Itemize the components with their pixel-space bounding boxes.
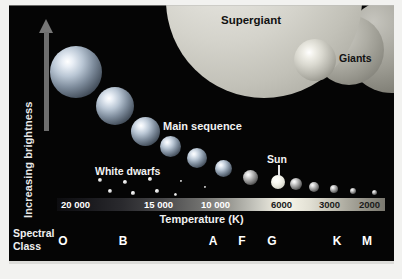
main-sequence-label: Main sequence bbox=[163, 120, 242, 132]
main-sequence-star-marker bbox=[187, 148, 207, 168]
spectral-class-title-line1: Spectral bbox=[13, 227, 54, 240]
x-axis-title: Temperature (K) bbox=[9, 213, 394, 225]
main-sequence-star-marker bbox=[131, 117, 160, 146]
main-sequence-star-marker bbox=[309, 182, 319, 192]
figure-page: Supergiant Giants Increasing brightness … bbox=[0, 0, 402, 279]
temperature-tick-label: 6000 bbox=[271, 198, 292, 211]
spectral-class-A: A bbox=[205, 234, 221, 248]
spectral-class-title-line2: Class bbox=[13, 240, 54, 253]
white-dwarf-marker bbox=[108, 189, 112, 193]
main-sequence-star-marker bbox=[215, 160, 232, 177]
giant-sphere-small-bright bbox=[294, 39, 336, 81]
main-sequence-star-marker bbox=[160, 136, 181, 157]
y-axis-label: Increasing brightness bbox=[22, 118, 34, 218]
white-dwarf-marker bbox=[180, 180, 183, 183]
temperature-tick-label: 15 000 bbox=[144, 198, 173, 211]
spectral-class-G: G bbox=[264, 234, 280, 248]
increasing-brightness-arrow-icon bbox=[39, 19, 53, 33]
white-dwarfs-label: White dwarfs bbox=[95, 165, 160, 177]
white-dwarf-marker bbox=[123, 180, 127, 184]
temperature-tick-label: 2000 bbox=[359, 198, 380, 211]
white-dwarf-marker bbox=[204, 186, 206, 188]
main-sequence-star-marker bbox=[330, 185, 338, 193]
white-dwarf-marker bbox=[174, 193, 177, 196]
main-sequence-star-marker bbox=[350, 188, 356, 194]
spectral-class-title: Spectral Class bbox=[13, 227, 54, 252]
spectral-class-F: F bbox=[234, 234, 250, 248]
hr-diagram-plate: Supergiant Giants Increasing brightness … bbox=[9, 5, 394, 261]
temperature-tick-label: 20 000 bbox=[61, 198, 90, 211]
spectral-class-K: K bbox=[329, 234, 345, 248]
main-sequence-star-marker bbox=[243, 170, 258, 185]
giants-label: Giants bbox=[339, 52, 372, 64]
white-dwarf-marker bbox=[131, 191, 134, 194]
sun-label: Sun bbox=[267, 153, 287, 165]
white-dwarf-marker bbox=[148, 177, 151, 180]
plate-top-edge bbox=[9, 5, 394, 6]
spectral-class-O: O bbox=[55, 234, 71, 248]
sun-leader-line bbox=[278, 165, 280, 176]
spectral-class-M: M bbox=[359, 234, 375, 248]
main-sequence-star-marker bbox=[96, 87, 134, 125]
temperature-tick-label: 3000 bbox=[319, 198, 340, 211]
main-sequence-star-marker bbox=[50, 46, 102, 98]
temperature-tick-label: 10 000 bbox=[201, 198, 230, 211]
white-dwarf-marker bbox=[98, 178, 102, 182]
plate-bottom-edge bbox=[9, 261, 394, 264]
sun-marker bbox=[271, 175, 285, 189]
supergiant-label: Supergiant bbox=[221, 14, 281, 26]
main-sequence-star-marker bbox=[290, 178, 302, 190]
main-sequence-star-marker bbox=[372, 190, 377, 195]
spectral-class-B: B bbox=[115, 234, 131, 248]
increasing-brightness-arrow-shaft bbox=[44, 32, 49, 131]
white-dwarf-marker bbox=[155, 189, 158, 192]
